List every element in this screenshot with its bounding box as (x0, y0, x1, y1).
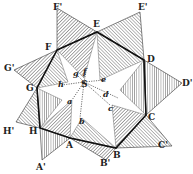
label-b-prime: B' (100, 158, 110, 168)
label-g-inner: g (73, 68, 79, 78)
label-e-inner: e (101, 74, 106, 84)
label-f: F (45, 42, 52, 52)
label-e-prime: E' (138, 2, 148, 12)
label-g: G (26, 83, 34, 93)
label-d-inner: d (103, 89, 109, 99)
label-g-prime: G' (4, 63, 14, 73)
label-a-inner: a (67, 96, 72, 106)
label-h: H (29, 126, 38, 136)
label-e: E (93, 19, 100, 29)
flap-h (16, 88, 40, 128)
label-s-center: S (81, 79, 88, 89)
label-h-inner: h (58, 79, 64, 89)
label-d-prime: D' (182, 78, 193, 88)
label-b: B (113, 150, 121, 160)
label-c-inner: c (108, 103, 113, 113)
label-b-inner: b (79, 116, 85, 126)
label-d: D (147, 54, 155, 64)
label-c-prime: C' (158, 140, 168, 150)
flap-d (144, 60, 182, 115)
label-h-prime: H' (3, 126, 14, 136)
label-f-prime: F' (53, 2, 62, 12)
star-net-diagram: F' E' D' C' B' A' H' G' F E D C B A H G … (0, 0, 193, 174)
label-c: C (148, 112, 155, 122)
label-a: A (65, 140, 74, 150)
label-a-prime: A' (35, 162, 46, 172)
